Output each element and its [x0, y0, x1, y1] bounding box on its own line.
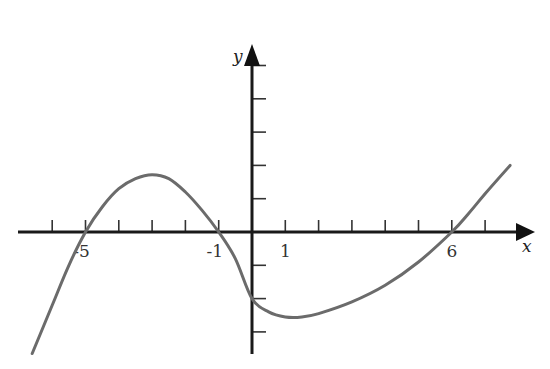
x-axis-label: x: [522, 236, 532, 256]
y-axis-ticks: [252, 66, 266, 332]
x-tick-label: -1: [206, 241, 223, 261]
y-axis-label: y: [232, 46, 243, 66]
x-tick-labels: -5-116: [73, 241, 457, 261]
function-graph: -5-116 x y: [0, 0, 550, 369]
x-tick-label: 6: [446, 241, 457, 261]
x-axis-ticks: [52, 220, 485, 232]
y-axis-arrow-icon: [244, 44, 260, 66]
function-curve: [32, 165, 510, 353]
x-tick-label: 1: [280, 241, 291, 261]
